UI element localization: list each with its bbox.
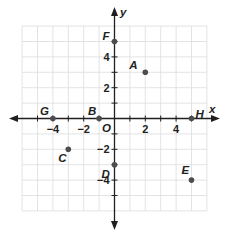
point-h: [189, 116, 195, 122]
y-tick-label: 4: [103, 51, 110, 63]
point-d: [112, 162, 118, 168]
x-tick-label: 4: [173, 123, 180, 135]
point-label-a: A: [128, 59, 137, 71]
x-tick-label: −4: [47, 123, 60, 135]
y-axis-label: y: [119, 6, 127, 18]
point-label-b: B: [88, 105, 96, 117]
y-tick-label: 2: [103, 82, 109, 94]
y-axis-arrow-up-icon: [111, 7, 118, 16]
x-axis-label: x: [208, 103, 216, 115]
point-label-d: D: [102, 168, 110, 180]
origin-label: O: [102, 122, 111, 134]
point-label-f: F: [103, 30, 111, 42]
point-b: [96, 116, 102, 122]
y-tick-label: −2: [97, 143, 110, 155]
point-a: [143, 70, 149, 76]
x-tick-label: 2: [142, 123, 148, 135]
x-axis-arrow-right-icon: [211, 115, 220, 122]
point-f: [112, 39, 118, 45]
x-tick-label: −2: [77, 123, 90, 135]
point-label-e: E: [182, 164, 190, 176]
point-c: [66, 147, 72, 153]
point-e: [189, 177, 195, 183]
coordinate-plane: −4−22442−2−4 ABCDEFGH x y O: [0, 0, 228, 234]
point-g: [50, 116, 56, 122]
point-label-h: H: [196, 108, 205, 120]
data-points: ABCDEFGH: [40, 30, 205, 183]
x-axis-arrow-left-icon: [9, 115, 18, 122]
point-label-g: G: [40, 105, 49, 117]
y-axis-arrow-down-icon: [111, 221, 118, 230]
point-label-c: C: [58, 152, 67, 164]
